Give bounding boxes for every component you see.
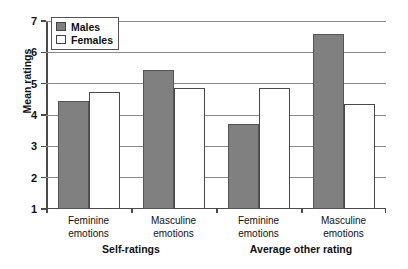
bar-females-3 — [344, 104, 375, 209]
category-label-line: Masculine — [321, 215, 366, 228]
y-tick-label-1: 1 — [31, 203, 37, 215]
bar-females-2 — [259, 88, 290, 209]
bar-females-0 — [89, 92, 120, 210]
category-label-1: Masculineemotions — [151, 215, 196, 240]
legend: Males Females — [51, 17, 119, 50]
legend-label-males: Males — [71, 21, 100, 33]
y-tick-label-2: 2 — [31, 172, 37, 184]
legend-swatch-males-icon — [56, 22, 66, 31]
category-label-3: Masculineemotions — [321, 215, 366, 240]
category-label-0: Feminineemotions — [68, 215, 109, 240]
y-tick-label-3: 3 — [31, 140, 37, 152]
legend-label-females: Females — [71, 34, 113, 46]
y-tick-label-7: 7 — [31, 15, 37, 27]
category-label-line: Feminine — [238, 215, 279, 228]
x-tick-3 — [301, 208, 303, 213]
x-tick-1 — [131, 208, 133, 213]
category-label-2: Feminineemotions — [238, 215, 279, 240]
legend-swatch-females-icon — [56, 35, 66, 44]
bar-females-1 — [174, 88, 205, 209]
y-tick-label-5: 5 — [31, 78, 37, 90]
bar-males-0 — [58, 101, 89, 209]
legend-item-males: Males — [56, 20, 113, 33]
x-tick-4 — [385, 208, 387, 213]
bar-chart: Mean ratings 1234567 FeminineemotionsMas… — [0, 0, 408, 269]
category-label-line: emotions — [68, 228, 109, 241]
x-tick-0 — [46, 208, 48, 213]
bar-males-3 — [313, 34, 344, 209]
bar-males-2 — [228, 124, 259, 209]
y-tick-label-6: 6 — [31, 46, 37, 58]
category-label-line: emotions — [321, 228, 366, 241]
category-label-line: emotions — [151, 228, 196, 241]
group-label-0: Self-ratings — [102, 243, 160, 255]
bar-males-1 — [143, 70, 174, 209]
y-tick-label-4: 4 — [31, 109, 37, 121]
category-label-line: Feminine — [68, 215, 109, 228]
category-label-line: Masculine — [151, 215, 196, 228]
legend-item-females: Females — [56, 33, 113, 46]
x-tick-2 — [216, 208, 218, 213]
category-label-line: emotions — [238, 228, 279, 241]
group-label-1: Average other rating — [250, 243, 352, 255]
